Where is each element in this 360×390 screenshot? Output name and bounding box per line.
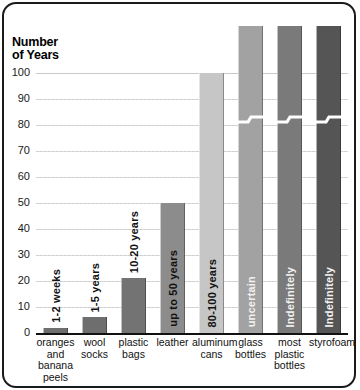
axis-break-mark bbox=[312, 113, 345, 125]
axis-break-mark bbox=[273, 113, 306, 125]
bar-value-label: up to 50 years bbox=[167, 250, 179, 327]
bar-chart: Number of Years 0102030405060708090100 1… bbox=[0, 0, 360, 390]
x-axis-category-label: leather bbox=[153, 337, 192, 349]
bar-leather[interactable]: up to 50 years bbox=[160, 203, 185, 333]
bar-wool-socks[interactable]: 1-5 years bbox=[82, 317, 107, 333]
bar-value-label: Indefinitely bbox=[284, 267, 296, 327]
bar-aluminum-cans[interactable]: 80-100 years bbox=[199, 73, 224, 333]
x-axis-category-label: plastic bags bbox=[114, 337, 153, 360]
y-axis-tick-label: 80 bbox=[2, 118, 30, 130]
bar-value-label: 80-100 years bbox=[206, 259, 218, 327]
axis-break-mark bbox=[234, 113, 267, 125]
bar-value-label: Indefinitely bbox=[323, 267, 335, 327]
y-axis-tick-label: 100 bbox=[2, 66, 30, 78]
x-axis-category-label: aluminum cans bbox=[192, 337, 231, 360]
x-axis-category-label: glass bottles bbox=[231, 337, 270, 360]
y-axis-tick-label: 30 bbox=[2, 248, 30, 260]
y-axis-tick-label: 60 bbox=[2, 170, 30, 182]
bar-value-label: 1-5 years bbox=[89, 263, 101, 313]
bar-plastic-bags[interactable]: 10-20 years bbox=[121, 278, 146, 333]
x-axis-category-label: wool socks bbox=[75, 337, 114, 360]
bar-value-label: 10-20 years bbox=[128, 211, 140, 273]
y-axis-tick-label: 10 bbox=[2, 300, 30, 312]
x-axis-category-label: oranges and banana peels bbox=[36, 337, 75, 383]
y-axis-tick-label: 70 bbox=[2, 144, 30, 156]
bar-most-plastic-bottles[interactable]: Indefinitely bbox=[277, 26, 302, 333]
bar-glass-bottles[interactable]: uncertain bbox=[238, 26, 263, 333]
bar-value-label: 1-2 weeks bbox=[50, 269, 62, 323]
y-axis-tick-label: 40 bbox=[2, 222, 30, 234]
x-axis-category-label: most plastic bottles bbox=[270, 337, 309, 372]
y-axis-tick-label: 50 bbox=[2, 196, 30, 208]
x-axis-category-label: styrofoam bbox=[309, 337, 348, 349]
plot-area: 0102030405060708090100 1-2 weeks1-5 year… bbox=[36, 8, 348, 333]
y-axis-tick-label: 20 bbox=[2, 274, 30, 286]
y-axis-tick-label: 0 bbox=[2, 326, 30, 338]
x-axis-line bbox=[36, 333, 348, 335]
bar-styrofoam[interactable]: Indefinitely bbox=[316, 26, 341, 333]
y-axis-tick-label: 90 bbox=[2, 92, 30, 104]
bar-value-label: uncertain bbox=[245, 276, 257, 327]
